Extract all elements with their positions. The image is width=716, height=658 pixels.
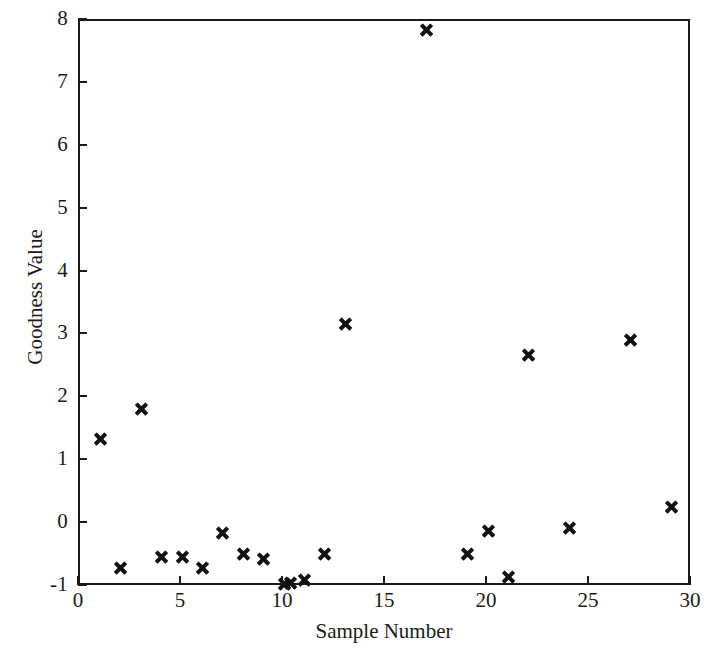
- data-point-marker: [316, 545, 333, 562]
- x-tick-mark: [77, 576, 79, 585]
- y-tick-label: 7: [0, 71, 68, 92]
- data-point-marker: [255, 550, 272, 567]
- data-point-marker: [153, 548, 170, 565]
- data-point-marker: [92, 431, 109, 448]
- data-point-marker: [418, 22, 435, 39]
- x-tick-label: 0: [48, 590, 108, 611]
- x-tick-label: 5: [150, 590, 210, 611]
- data-point-marker: [622, 331, 639, 348]
- y-tick-mark: [78, 332, 87, 334]
- x-tick-label: 15: [354, 590, 414, 611]
- y-tick-label: 8: [0, 8, 68, 29]
- y-tick-mark: [78, 521, 87, 523]
- x-tick-label: 30: [660, 590, 716, 611]
- y-tick-mark: [78, 458, 87, 460]
- y-tick-label: 0: [0, 511, 68, 532]
- x-tick-mark: [179, 576, 181, 585]
- data-point-marker: [663, 499, 680, 516]
- y-tick-mark: [78, 207, 87, 209]
- x-tick-mark: [587, 576, 589, 585]
- data-point-marker: [459, 545, 476, 562]
- scatter-plot-figure: -1012345678 051015202530 Sample Number G…: [0, 0, 716, 658]
- y-tick-mark: [78, 395, 87, 397]
- plot-frame: [78, 19, 690, 585]
- y-tick-mark: [78, 270, 87, 272]
- y-tick-mark: [78, 81, 87, 83]
- x-tick-mark: [281, 576, 283, 585]
- y-tick-mark: [78, 18, 87, 20]
- y-tick-mark: [78, 584, 87, 586]
- y-axis-title: Goodness Value: [23, 147, 47, 447]
- data-point-marker: [174, 548, 191, 565]
- data-point-marker: [214, 524, 231, 541]
- data-point-marker: [337, 316, 354, 333]
- data-point-marker: [296, 572, 313, 589]
- data-point-marker: [112, 560, 129, 577]
- x-tick-mark: [383, 576, 385, 585]
- x-axis-title: Sample Number: [78, 619, 690, 643]
- data-point-marker: [561, 519, 578, 536]
- data-point-marker: [500, 569, 517, 586]
- x-tick-label: 10: [252, 590, 312, 611]
- y-tick-label: 1: [0, 448, 68, 469]
- data-point-marker: [235, 545, 252, 562]
- x-tick-mark: [689, 576, 691, 585]
- data-point-marker: [194, 560, 211, 577]
- data-point-marker: [480, 523, 497, 540]
- data-point-marker: [133, 401, 150, 418]
- x-tick-mark: [485, 576, 487, 585]
- y-tick-mark: [78, 144, 87, 146]
- plot-area: [80, 21, 688, 583]
- x-tick-label: 25: [558, 590, 618, 611]
- data-point-marker: [520, 347, 537, 364]
- x-tick-label: 20: [456, 590, 516, 611]
